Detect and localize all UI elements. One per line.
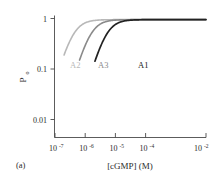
y-axis-title: P o [18,72,30,83]
y-tick-labels: 1 0.1 0.01 [33,15,47,125]
curve-a1 [95,20,206,62]
x-tick-exponent: -2 [204,143,209,149]
x-tick-mantissa: 10 [140,144,148,153]
curve-label-a1: A1 [138,60,148,70]
curve-a3 [80,20,206,60]
y-axis-title-base: P [18,77,28,82]
y-tick-label-0.01: 0.01 [33,116,47,125]
axis-lines [55,16,207,138]
chart-svg: 1 0.1 0.01 P o 10 -7 10 -6 10 -5 10 [0,0,213,179]
y-axis-title-subscript: o [24,72,30,75]
x-tick-labels: 10 -7 10 -6 10 -5 10 -4 10 -2 [49,143,209,154]
x-tick-exponent: -6 [89,143,94,149]
curve-label-a3: A3 [98,60,108,70]
panel-label: (a) [16,160,26,170]
figure-panel-a: 1 0.1 0.01 P o 10 -7 10 -6 10 -5 10 [0,0,213,179]
curve-a2 [64,20,206,55]
x-tick-label-1e-2: 10 -2 [194,143,209,154]
x-tick-mantissa: 10 [194,144,202,153]
x-tick-label-1e-7: 10 -7 [49,143,64,154]
y-tick-label-0.1: 0.1 [37,65,47,74]
x-tick-label-1e-5: 10 -5 [109,143,124,154]
x-tick-exponent: -4 [150,143,155,149]
curve-label-a2: A2 [70,60,80,70]
x-tick-label-1e-4: 10 -4 [140,143,155,154]
data-curves [64,20,206,62]
x-axis-title: [cGMP] (M) [107,161,153,171]
curve-labels: A2A3A1 [70,60,148,70]
x-tick-exponent: -7 [59,143,64,149]
y-tick-label-1: 1 [43,15,47,24]
x-tick-mantissa: 10 [49,144,57,153]
x-tick-exponent: -5 [119,143,124,149]
x-tick-mantissa: 10 [109,144,117,153]
x-tick-mantissa: 10 [79,144,87,153]
x-tick-label-1e-6: 10 -6 [79,143,94,154]
